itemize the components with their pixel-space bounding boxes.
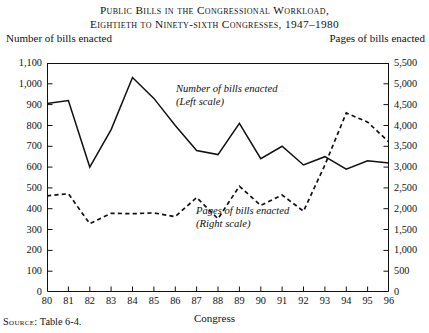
- right-axis-tick-label: 4,500: [394, 100, 429, 110]
- right-axis-tick-label: 2,000: [394, 204, 429, 214]
- x-axis-tick-label: 82: [79, 296, 101, 306]
- right-axis-tick-label: 1,500: [394, 225, 429, 235]
- left-axis-tick-label: 700: [0, 141, 42, 151]
- chart-title-line-1: Public Bills in the Congressional Worklo…: [0, 3, 429, 17]
- right-axis-tick-label: 2,500: [394, 183, 429, 193]
- right-axis-tick-label: 500: [394, 266, 429, 276]
- x-axis-tick-label: 84: [122, 296, 144, 306]
- x-axis-tick-label: 80: [36, 296, 58, 306]
- x-axis-tick-label: 85: [143, 296, 165, 306]
- right-axis-caption: Pages of bills enacted: [329, 32, 425, 45]
- source-text: Table 6-4.: [40, 316, 82, 327]
- left-axis-tick-label: 600: [0, 162, 42, 172]
- left-axis-tick-label: 1,100: [0, 58, 42, 68]
- x-axis-tick-label: 91: [271, 296, 293, 306]
- x-axis-tick-label: 94: [335, 296, 357, 306]
- left-axis-tick-label: 300: [0, 225, 42, 235]
- series-line-1: [47, 78, 389, 170]
- chart-title: Public Bills in the Congressional Worklo…: [0, 3, 429, 31]
- left-axis-tick-label: 100: [0, 266, 42, 276]
- right-axis-tick-label: 3,500: [394, 141, 429, 151]
- chart-title-line-2: Eightieth to Ninety-sixth Congresses, 19…: [0, 17, 429, 31]
- x-axis-tick-label: 81: [57, 296, 79, 306]
- x-axis-tick-label: 96: [378, 296, 400, 306]
- series-line-2: [47, 113, 389, 224]
- x-axis-tick-label: 87: [186, 296, 208, 306]
- left-axis-tick-label: 500: [0, 183, 42, 193]
- right-axis-tick-label: 3,000: [394, 162, 429, 172]
- right-axis-tick-label: 5,500: [394, 58, 429, 68]
- x-axis-tick-label: 93: [314, 296, 336, 306]
- right-axis-tick-label: 4,000: [394, 121, 429, 131]
- x-axis-tick-label: 90: [250, 296, 272, 306]
- x-axis-tick-label: 89: [228, 296, 250, 306]
- left-axis-tick-label: 400: [0, 204, 42, 214]
- chart-figure: Public Bills in the Congressional Worklo…: [0, 0, 429, 333]
- left-axis-caption: Number of bills enacted: [6, 32, 112, 45]
- source-label: Source:: [3, 316, 37, 327]
- left-axis-tick-label: 900: [0, 100, 42, 110]
- x-axis-tick-label: 92: [293, 296, 315, 306]
- x-axis-tick-label: 95: [357, 296, 379, 306]
- plot-area: [47, 63, 389, 292]
- x-axis-tick-label: 86: [164, 296, 186, 306]
- x-axis-tick-label: 88: [207, 296, 229, 306]
- x-axis-tick-label: 83: [100, 296, 122, 306]
- source-note: Source: Table 6-4.: [3, 316, 81, 327]
- right-axis-tick-label: 1,000: [394, 245, 429, 255]
- left-axis-tick-label: 800: [0, 121, 42, 131]
- plot-svg: [47, 63, 389, 292]
- left-axis-tick-label: 200: [0, 245, 42, 255]
- right-axis-tick-label: 5,000: [394, 79, 429, 89]
- left-axis-tick-label: 1,000: [0, 79, 42, 89]
